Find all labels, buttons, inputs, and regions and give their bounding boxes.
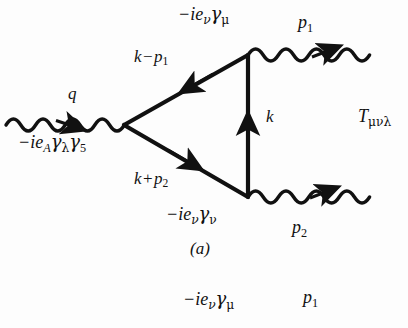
vertex-nu-charge-subscript: ν xyxy=(191,213,198,227)
p1-subscript: 1 xyxy=(307,21,313,35)
vertex-mu-gamma: γ xyxy=(211,3,222,24)
vertex-axial-gamma-2: γ xyxy=(69,131,80,152)
p2-symbol: p xyxy=(292,217,301,237)
vertex-axial-gamma-1-index: λ xyxy=(61,141,69,155)
k-plus-p2-operator: + xyxy=(142,169,154,188)
tensor-symbol: T xyxy=(358,106,368,126)
label-momentum-p1: p1 xyxy=(298,13,313,34)
vertex-axial-gamma-1: γ xyxy=(51,131,62,152)
vertex-nu-gamma: γ xyxy=(199,203,210,224)
label-momentum-k-plus-p2: k + p2 xyxy=(134,170,168,190)
next-vertex-mu-charge-subscript: ν xyxy=(208,298,215,312)
vertex-nu-prefix: −ie xyxy=(166,204,191,224)
figure-caption: (a) xyxy=(190,240,210,257)
k-minus-p1-first: k xyxy=(134,47,142,66)
label-momentum-q: q xyxy=(68,85,77,102)
incoming-photon-line-q xyxy=(6,119,124,131)
p2-subscript: 2 xyxy=(301,226,307,240)
vertex-mu-gamma-index: μ xyxy=(221,13,229,27)
next-vertex-mu-gamma: γ xyxy=(216,288,227,309)
label-next-figure-momentum-p1: p1 xyxy=(303,288,318,309)
vertex-mu-charge-subscript: ν xyxy=(203,13,210,27)
tensor-indices: μνλ xyxy=(368,115,391,129)
fermion-arrow-upper xyxy=(190,74,213,87)
label-amplitude-tensor: Tμνλ xyxy=(358,107,391,128)
vertex-nu-gamma-index: ν xyxy=(209,213,216,227)
label-momentum-k-minus-p1: k − p1 xyxy=(134,48,168,68)
vertex-axial-charge-subscript: A xyxy=(43,141,50,155)
p1-symbol: p xyxy=(298,12,307,32)
label-vertex-coupling-mu: −ieνγμ xyxy=(178,5,229,26)
label-momentum-p2: p2 xyxy=(292,218,307,239)
k-minus-p1-second-subscript: 1 xyxy=(162,55,168,68)
label-next-figure-vertex-coupling-mu: −ieνγμ xyxy=(183,290,234,311)
next-p1-symbol: p xyxy=(303,287,312,307)
vertex-axial-gamma-2-index: 5 xyxy=(80,141,86,155)
label-momentum-k: k xyxy=(266,108,274,125)
k-minus-p1-operator: − xyxy=(142,47,154,66)
vertex-axial-prefix: −ie xyxy=(18,132,43,152)
next-p1-subscript: 1 xyxy=(312,296,318,310)
label-vertex-coupling-axial: −ieAγλγ5 xyxy=(18,133,86,154)
fermion-arrow-lower xyxy=(168,150,192,164)
feynman-diagram-graphic xyxy=(0,0,408,328)
outgoing-photon-line-p2 xyxy=(248,191,370,203)
label-vertex-coupling-nu: −ieνγν xyxy=(166,205,217,226)
next-vertex-mu-gamma-index: μ xyxy=(226,298,234,312)
k-plus-p2-second-subscript: 2 xyxy=(162,177,168,190)
vertex-mu-prefix: −ie xyxy=(178,4,203,24)
outgoing-photon-line-p1 xyxy=(248,49,370,61)
figure-canvas: −ieνγμ −ieνγν −ieAγλγ5 k − p1 k + p2 k q… xyxy=(0,0,408,328)
next-vertex-mu-prefix: −ie xyxy=(183,289,208,309)
q-symbol: q xyxy=(68,84,77,103)
k-symbol: k xyxy=(266,107,274,126)
k-plus-p2-first: k xyxy=(134,169,142,188)
